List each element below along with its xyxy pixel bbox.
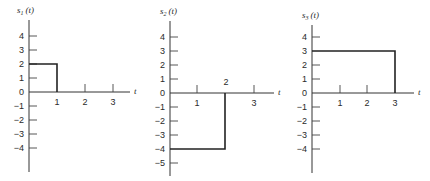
plot-s3-x-label: t [418, 87, 421, 97]
svg-text:4: 4 [302, 32, 307, 42]
svg-text:−2: −2 [155, 116, 165, 126]
svg-text:1: 1 [194, 98, 199, 108]
svg-text:−3: −3 [297, 130, 307, 140]
svg-text:0: 0 [160, 88, 165, 98]
plot-s1-x-tick-labels: 1 2 3 [54, 97, 115, 107]
plot-s1-x-label: t [134, 86, 137, 96]
plot-s3-x-ticks [340, 85, 367, 93]
svg-text:−1: −1 [14, 101, 24, 111]
plot-s3-title: s3(t) [302, 10, 319, 21]
svg-text:3: 3 [160, 46, 165, 56]
plot-s2: s2(t) t 4 3 2 1 0 −1 −2 −3 −4 −5 [155, 6, 281, 176]
svg-text:1: 1 [302, 74, 307, 84]
svg-text:3: 3 [392, 98, 397, 108]
svg-text:3: 3 [110, 97, 115, 107]
plot-s2-y-ticks [170, 37, 178, 163]
svg-text:2: 2 [364, 98, 369, 108]
plot-s3-signal [312, 51, 395, 93]
svg-text:1: 1 [54, 97, 59, 107]
plot-s1: s1(t) t 4 3 2 1 0 −1 −2 −3 −4 [14, 5, 137, 172]
svg-text:−3: −3 [155, 130, 165, 140]
svg-text:−2: −2 [297, 116, 307, 126]
plot-s1-title: s1(t) [17, 5, 34, 16]
svg-text:−2: −2 [14, 115, 24, 125]
svg-text:4: 4 [160, 32, 165, 42]
svg-text:1: 1 [337, 98, 342, 108]
svg-text:3: 3 [302, 46, 307, 56]
svg-text:−1: −1 [297, 102, 307, 112]
svg-text:3: 3 [19, 45, 24, 55]
svg-text:−1: −1 [155, 102, 165, 112]
svg-text:−4: −4 [297, 144, 307, 154]
svg-text:3: 3 [251, 98, 256, 108]
svg-text:2: 2 [302, 60, 307, 70]
plot-s3-y-tick-labels: 4 3 2 1 0 −1 −2 −3 −4 [297, 32, 307, 154]
plot-s3-x-tick-labels: 1 2 3 [337, 98, 397, 108]
svg-text:2: 2 [19, 59, 24, 69]
svg-text:0: 0 [302, 88, 307, 98]
plot-s2-x-label: t [278, 87, 281, 97]
svg-text:−5: −5 [155, 158, 165, 168]
plot-s3: s3(t) t 4 3 2 1 0 −1 −2 −3 −4 [297, 10, 421, 173]
svg-text:1: 1 [19, 73, 24, 83]
svg-text:2: 2 [82, 97, 87, 107]
svg-text:−4: −4 [14, 143, 24, 153]
svg-text:2: 2 [223, 77, 228, 87]
svg-text:4: 4 [19, 31, 24, 41]
signal-plots-figure: s1(t) t 4 3 2 1 0 −1 −2 −3 −4 [0, 0, 430, 181]
plot-s2-title: s2(t) [160, 6, 177, 17]
plot-s1-x-ticks [85, 84, 113, 92]
svg-text:1: 1 [160, 74, 165, 84]
svg-text:−4: −4 [155, 144, 165, 154]
plot-s2-y-tick-labels: 4 3 2 1 0 −1 −2 −3 −4 −5 [155, 32, 165, 168]
plot-s1-y-tick-labels: 4 3 2 1 0 −1 −2 −3 −4 [14, 31, 24, 153]
svg-text:2: 2 [160, 60, 165, 70]
svg-text:−3: −3 [14, 129, 24, 139]
svg-text:0: 0 [19, 87, 24, 97]
